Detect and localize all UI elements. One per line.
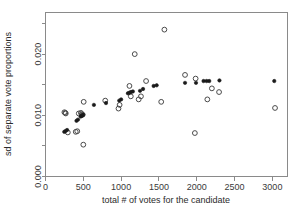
y-axis-title: sd of separate vote proportions — [3, 31, 13, 156]
data-point — [92, 103, 95, 106]
data-point — [127, 84, 132, 89]
data-point — [193, 76, 198, 81]
y-tick-label-0.02: 0.020 — [33, 43, 43, 66]
x-axis-tick-labels: 050010001500200025003000 — [43, 182, 282, 192]
data-point — [119, 98, 122, 101]
x-tick-label-3000: 3000 — [262, 182, 282, 192]
plot-canvas: 050010001500200025003000 0.0000.0100.020… — [0, 0, 303, 214]
data-point — [217, 90, 222, 95]
y-axis-tick-labels: 0.0000.0100.020 — [33, 43, 43, 188]
data-point — [155, 84, 158, 87]
data-point — [218, 79, 221, 82]
data-point — [81, 113, 84, 116]
data-point — [76, 118, 79, 121]
data-point — [183, 73, 188, 78]
data-point — [81, 99, 86, 104]
data-point — [209, 86, 214, 91]
data-point — [273, 79, 276, 82]
data-point — [208, 79, 211, 82]
data-point — [205, 97, 210, 102]
x-axis-title: total # of votes for the candidate — [102, 195, 230, 205]
y-tick-label-0: 0.000 — [33, 165, 43, 188]
data-point — [131, 90, 134, 93]
data-point — [194, 81, 197, 84]
data-point — [162, 27, 167, 32]
data-point — [81, 142, 86, 147]
series-observed-points — [62, 27, 277, 147]
x-tick-label-1500: 1500 — [149, 182, 169, 192]
data-point — [132, 52, 137, 57]
series-fitted-points — [63, 79, 276, 134]
x-tick-label-500: 500 — [76, 182, 91, 192]
x-tick-label-2000: 2000 — [187, 182, 207, 192]
data-point — [65, 128, 68, 131]
x-tick-label-1000: 1000 — [111, 182, 131, 192]
data-point — [183, 81, 186, 84]
x-tick-label-0: 0 — [43, 182, 48, 192]
data-point — [144, 79, 149, 84]
plot-frame — [46, 13, 288, 177]
data-point — [159, 99, 164, 104]
data-point — [141, 87, 144, 90]
x-tick-label-2500: 2500 — [225, 182, 245, 192]
data-point — [273, 106, 278, 111]
x-axis-ticks — [46, 177, 273, 181]
data-point — [192, 131, 197, 136]
y-tick-label-0.01: 0.010 — [33, 104, 43, 127]
scatter-plot-figure: 050010001500200025003000 0.0000.0100.020… — [0, 0, 303, 214]
data-point — [104, 101, 107, 104]
